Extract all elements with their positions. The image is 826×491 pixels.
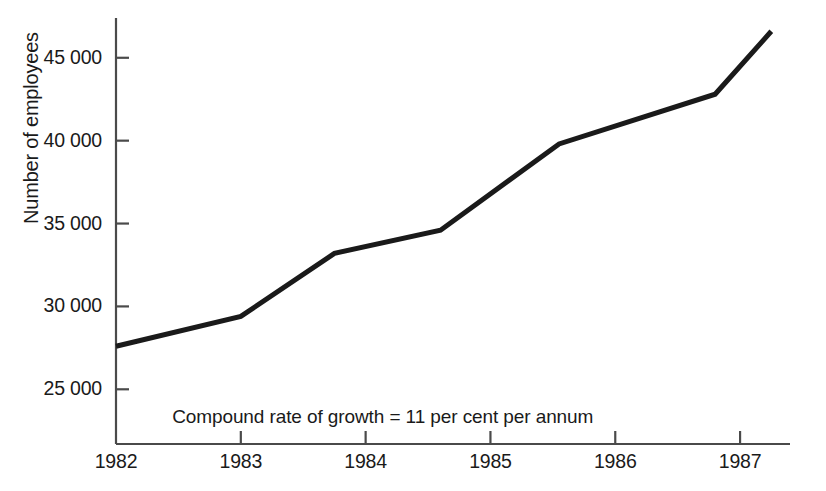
y-axis-tick-marks xyxy=(116,58,129,390)
x-axis-tick-label: 1986 xyxy=(555,452,675,472)
y-axis-tick-label: 25 000 xyxy=(2,379,102,399)
x-axis-tick-label: 1987 xyxy=(680,452,800,472)
y-axis-tick-label: 35 000 xyxy=(2,214,102,234)
x-axis-tick-label: 1984 xyxy=(306,452,426,472)
data-series-line xyxy=(116,31,771,346)
growth-rate-annotation: Compound rate of growth = 11 per cent pe… xyxy=(172,407,593,428)
x-axis-tick-label: 1982 xyxy=(56,452,176,472)
x-axis-tick-label: 1985 xyxy=(430,452,550,472)
y-axis-tick-label: 40 000 xyxy=(2,131,102,151)
line-chart: Number of employees 45 00040 00035 00030… xyxy=(0,0,826,491)
x-axis-tick-marks xyxy=(241,431,740,444)
y-axis-tick-label: 45 000 xyxy=(2,48,102,68)
x-axis-tick-label: 1983 xyxy=(181,452,301,472)
y-axis-tick-label: 30 000 xyxy=(2,296,102,316)
